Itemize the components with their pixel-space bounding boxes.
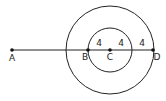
point-a: [10, 48, 14, 52]
label-d: D: [154, 52, 161, 62]
measurement-bc: 4: [96, 38, 102, 48]
measurement-c-inner: 4: [118, 38, 124, 48]
label-a: A: [9, 53, 16, 63]
concentric-circles-diagram: A B C D 4 4 4: [0, 0, 166, 101]
label-b: B: [82, 52, 88, 62]
label-c: C: [107, 52, 113, 62]
measurement-to-d: 4: [139, 38, 145, 48]
